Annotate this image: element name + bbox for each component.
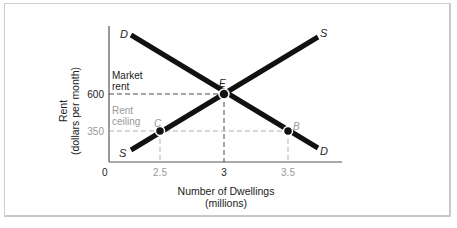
- y-tick-350: 350: [87, 126, 104, 137]
- point-c-label: C: [154, 118, 162, 129]
- x-tick-3-5: 3.5: [281, 167, 295, 178]
- point-b-label: B: [293, 121, 300, 132]
- y-tick-600: 600: [87, 89, 104, 100]
- point-e-label: E: [219, 78, 226, 89]
- origin-label: 0: [102, 167, 108, 178]
- supply-label-start: S: [119, 147, 127, 159]
- supply-demand-chart: D D S S E C B Market rent Rent ceiling 6…: [0, 0, 457, 228]
- market-rent-label-line1: Market: [112, 70, 143, 81]
- y-axis-title: Rent: [57, 100, 69, 122]
- x-axis-subtitle: (millions): [205, 197, 247, 209]
- rent-ceiling-label-line1: Rent: [112, 105, 133, 116]
- point-e: [219, 89, 229, 99]
- x-tick-2-5: 2.5: [153, 167, 167, 178]
- market-rent-label-line2: rent: [112, 81, 129, 92]
- rent-ceiling-label-line2: ceiling: [112, 116, 140, 127]
- x-tick-3: 3: [221, 167, 227, 178]
- x-axis-title: Number of Dwellings: [178, 185, 275, 197]
- y-axis-subtitle: (dollars per month): [69, 67, 81, 155]
- demand-label-start: D: [120, 28, 128, 40]
- supply-label-end: S: [320, 27, 328, 39]
- point-b: [284, 127, 293, 136]
- demand-label-end: D: [320, 145, 328, 157]
